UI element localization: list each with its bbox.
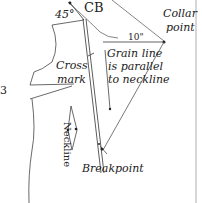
cut-line	[30, 86, 72, 99]
cb-dot	[69, 2, 72, 5]
grain-arrow-dot	[109, 108, 111, 110]
breakpoint-label: Breakpoint	[82, 163, 144, 174]
grain-note-line1: Grain line	[107, 48, 162, 59]
measurement-label: 10"	[128, 33, 144, 42]
neckline-label: Neckline	[62, 122, 72, 167]
cb-label: CB	[84, 1, 104, 14]
collar-point-label-line2: point	[166, 22, 195, 33]
dart-dot-right	[75, 128, 78, 131]
cross-mark-tick	[88, 53, 94, 56]
neckline-dot	[98, 143, 100, 145]
grain-note-line3: to neckline	[108, 74, 170, 85]
collar-point-label-line1: Collar	[163, 8, 197, 19]
cross-mark-label-line1: Cross	[56, 60, 88, 71]
neckline-line-1	[83, 19, 101, 173]
angle-label: 45°	[55, 9, 75, 20]
cross-mark-label-line2: mark	[57, 74, 86, 85]
pattern-diagram: 45° CB Collar point 10" Grain line is pa…	[0, 0, 202, 203]
side-seam	[29, 99, 34, 203]
edge-fragment-label: 3	[0, 85, 7, 96]
grain-note-line2: is parallel	[108, 61, 163, 72]
